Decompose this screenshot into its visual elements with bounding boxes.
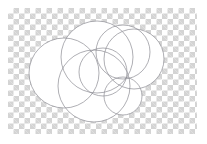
circles-svg [0,0,207,144]
image-canvas [0,0,207,144]
circles-artwork [0,0,207,144]
artwork-fill-group [29,21,164,122]
